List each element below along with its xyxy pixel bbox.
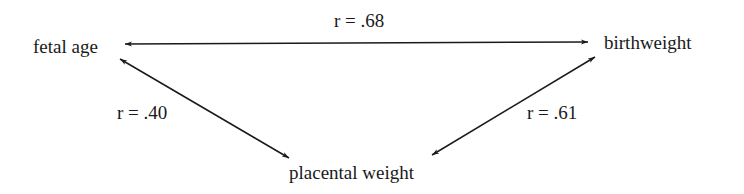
edge-label-r61: r = .61 xyxy=(527,103,577,122)
edge-label-r68: r = .68 xyxy=(334,11,384,30)
node-birthweight: birthweight xyxy=(604,33,692,52)
node-fetal-age: fetal age xyxy=(33,37,98,56)
node-placental-weight: placental weight xyxy=(289,163,414,182)
edge-label-r40: r = .40 xyxy=(117,103,167,122)
edge-fetal-age-birthweight xyxy=(125,42,588,44)
